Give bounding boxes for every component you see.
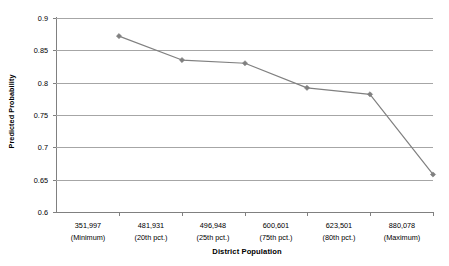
gridline-0.85: [56, 50, 433, 51]
y-tick-label-4: 0.7: [8, 143, 48, 152]
gridline-0.9: [56, 18, 433, 19]
y-tick-mark-0.75: [53, 115, 56, 116]
y-tick-label-1: 0.85: [8, 46, 48, 55]
x-tick-label-5-value: 880,078: [360, 220, 444, 232]
y-tick-label-0: 0.9: [8, 14, 48, 23]
y-tick-mark-0.85: [53, 50, 56, 51]
y-tick-mark-0.9: [53, 18, 56, 19]
x-axis-title: District Population: [60, 247, 434, 256]
y-tick-mark-0.7: [53, 147, 56, 148]
y-tick-mark-0.8: [53, 83, 56, 84]
y-tick-mark-0.65: [53, 180, 56, 181]
y-tick-mark-0.6: [53, 212, 56, 213]
x-tick-mark-4: [370, 212, 371, 216]
x-tick-mark-5: [433, 212, 434, 216]
y-tick-label-2: 0.8: [8, 79, 48, 88]
gridline-0.65: [56, 180, 433, 181]
x-tick-mark-1: [182, 212, 183, 216]
y-tick-label-5: 0.65: [8, 176, 48, 185]
x-tick-mark-3: [307, 212, 308, 216]
gridline-0.75: [56, 115, 433, 116]
y-tick-label-3: 0.75: [8, 111, 48, 120]
x-tick-label-5: 880,078 (Maximum): [360, 220, 444, 243]
x-tick-mark-0: [119, 212, 120, 216]
x-tick-label-5-note: (Maximum): [360, 232, 444, 244]
x-tick-mark-2: [245, 212, 246, 216]
y-tick-label-6: 0.6: [8, 208, 48, 217]
gridline-0.8: [56, 83, 433, 84]
plot-area: [56, 18, 433, 212]
chart-figure: Predicted Probability 0.9 0.85 0.8 0.75 …: [0, 0, 449, 266]
gridline-0.7: [56, 147, 433, 148]
